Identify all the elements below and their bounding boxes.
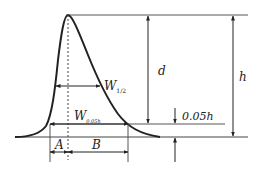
peak-diagram: W1/2 W0.05h A B d h 0.05h: [0, 0, 258, 176]
a-label: A: [54, 138, 64, 152]
w-half-sub: 1/2: [116, 87, 126, 94]
svg-text:W0.05h: W0.05h: [74, 109, 101, 124]
w-005-sub: 0.05h: [86, 118, 100, 124]
fraction-label: 0.05h: [182, 110, 214, 123]
svg-text:W1/2: W1/2: [104, 79, 126, 94]
b-label: B: [91, 138, 101, 152]
h-label: h: [239, 70, 247, 84]
d-label: d: [158, 64, 166, 78]
